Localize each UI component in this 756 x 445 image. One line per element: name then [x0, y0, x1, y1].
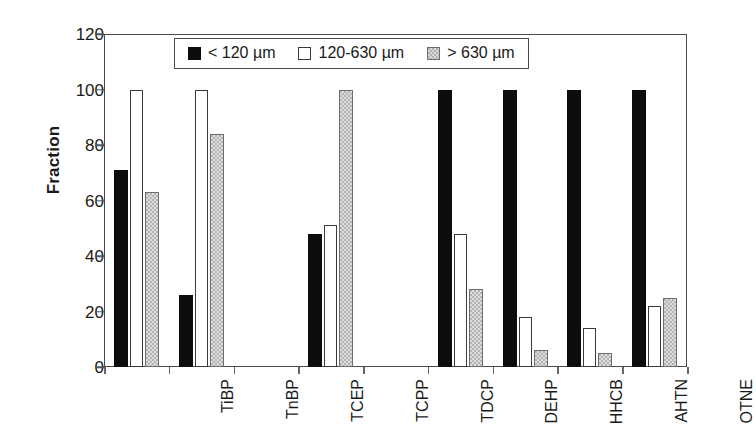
x-axis-tick-mark: [622, 367, 624, 374]
bar-ahtn-series3: [598, 353, 612, 367]
y-axis-tick-mark: [97, 200, 104, 202]
y-axis-tick-mark: [97, 311, 104, 313]
x-axis-tick-mark: [428, 367, 430, 374]
y-axis: Fraction 020406080100120: [0, 0, 104, 445]
bar-otne-series1: [632, 90, 646, 368]
y-axis-tick-mark: [97, 366, 104, 368]
bar-dehp-series2: [454, 234, 467, 367]
bar-ahtn-series1: [567, 90, 581, 368]
y-axis-tick-mark: [97, 89, 104, 91]
x-axis-tick-mark: [169, 367, 171, 374]
legend-entry-3: > 630 µm: [427, 44, 514, 62]
bar-tnbp-series1: [179, 295, 193, 367]
legend-label: < 120 µm: [208, 44, 275, 62]
y-axis-tick-label: 120: [42, 26, 104, 43]
x-axis-tick-mark: [363, 367, 365, 374]
chart-legend: < 120 µm120-630 µm> 630 µm: [174, 38, 529, 69]
bar-ahtn-series2: [583, 328, 596, 367]
x-axis-label-tnbp: TnBP: [284, 379, 302, 445]
legend-swatch-icon-1: [188, 47, 201, 60]
y-axis-tick-mark: [97, 255, 104, 257]
x-axis-tick-mark: [298, 367, 300, 374]
y-axis-tick-mark: [97, 33, 104, 35]
bar-tcpp-series3: [339, 90, 353, 368]
x-axis-label-tdcp: TDCP: [479, 379, 497, 445]
x-axis-tick-mark: [557, 367, 559, 374]
x-axis-label-tcpp: TCPP: [414, 379, 432, 445]
x-axis-label-dehp: DEHP: [543, 379, 561, 445]
x-axis-label-hhcb: HHCB: [608, 379, 626, 445]
legend-swatch-icon-3: [427, 47, 440, 60]
bar-hhcb-series1: [503, 90, 517, 368]
legend-entry-2: 120-630 µm: [298, 44, 404, 62]
legend-label: > 630 µm: [447, 44, 514, 62]
x-axis: TiBPTnBPTCEPTCPPTDCPDEHPHHCBAHTNOTNE: [104, 367, 687, 445]
x-axis-label-tcep: TCEP: [349, 379, 367, 445]
bar-hhcb-series3: [534, 350, 548, 367]
bar-tibp-series1: [114, 170, 128, 367]
bar-series-container: [104, 34, 687, 367]
x-axis-tick-mark: [234, 367, 236, 374]
legend-label: 120-630 µm: [318, 44, 404, 62]
x-axis-label-tibp: TiBP: [219, 379, 237, 445]
y-axis-tick-mark: [97, 144, 104, 146]
bar-dehp-series3: [469, 289, 483, 367]
x-axis-tick-mark: [493, 367, 495, 374]
bar-tcpp-series2: [324, 225, 337, 367]
bar-tnbp-series2: [195, 90, 208, 368]
bar-dehp-series1: [438, 90, 452, 368]
bar-otne-series3: [663, 298, 677, 367]
bar-hhcb-series2: [519, 317, 532, 367]
legend-entry-1: < 120 µm: [188, 44, 275, 62]
bar-tibp-series2: [130, 90, 143, 368]
x-axis-tick-mark: [687, 367, 689, 374]
y-axis-tick-label: 40: [42, 248, 104, 265]
x-axis-label-ahtn: AHTN: [673, 379, 691, 445]
y-axis-tick-label: 0: [42, 359, 104, 376]
y-axis-tick-label: 60: [42, 192, 104, 209]
bar-tcpp-series1: [308, 234, 322, 367]
x-axis-label-otne: OTNE: [738, 379, 756, 445]
bar-tnbp-series3: [210, 134, 224, 367]
bar-tibp-series3: [145, 192, 159, 367]
y-axis-tick-label: 20: [42, 303, 104, 320]
bar-otne-series2: [648, 306, 661, 367]
y-axis-tick-label: 80: [42, 137, 104, 154]
x-axis-tick-mark: [104, 367, 106, 374]
y-axis-tick-label: 100: [42, 81, 104, 98]
legend-swatch-icon-2: [298, 47, 311, 60]
